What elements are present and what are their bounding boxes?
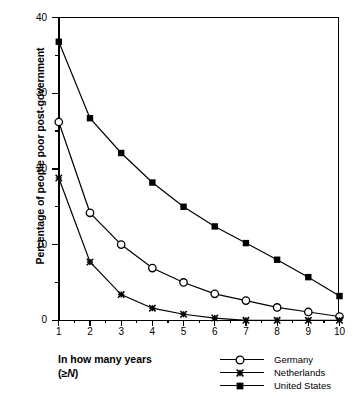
x-caption-line-1: In how many years [58, 352, 152, 366]
legend-marker-cross-star [218, 366, 266, 379]
legend-item: Germany [218, 353, 331, 366]
data-point-cross-star [118, 291, 124, 297]
data-point-open-circle [86, 209, 93, 216]
data-point-filled-square [56, 39, 62, 45]
data-point-cross-star [305, 317, 311, 323]
legend-marker-open-circle [218, 353, 266, 366]
data-point-open-circle [149, 264, 156, 271]
legend-item: United States [218, 379, 331, 392]
legend-label: United States [266, 380, 331, 391]
series-germany [55, 118, 343, 320]
x-axis-caption: In how many years (≥N) [58, 352, 152, 380]
data-point-open-circle [55, 118, 62, 125]
x-caption-line-2: (≥N) [58, 366, 152, 380]
series-lines [0, 0, 353, 399]
data-point-open-circle [242, 297, 249, 304]
data-point-open-circle [211, 290, 218, 297]
data-point-filled-square [87, 115, 93, 121]
data-point-filled-square [243, 240, 249, 246]
x-caption-open: (≥ [58, 367, 67, 379]
data-point-filled-square [274, 257, 280, 263]
data-point-cross-star [180, 311, 186, 317]
series-netherlands [56, 175, 343, 324]
data-point-cross-star [237, 370, 244, 377]
legend-label: Netherlands [266, 367, 325, 378]
data-point-cross-star [243, 317, 249, 323]
x-caption-close: ) [75, 367, 79, 379]
data-point-filled-square [336, 293, 342, 299]
data-point-open-circle [180, 279, 187, 286]
data-point-filled-square [118, 150, 124, 156]
data-point-filled-square [237, 383, 244, 390]
chart-root: Percentage of people poor post-governmen… [0, 0, 353, 399]
x-caption-n: N [67, 367, 75, 379]
data-point-cross-star [56, 175, 62, 181]
series-united-states [56, 39, 343, 300]
data-point-filled-square [149, 179, 155, 185]
data-point-open-circle [273, 304, 280, 311]
legend-glyph [235, 368, 245, 378]
legend-glyph [235, 381, 245, 391]
data-point-cross-star [149, 305, 155, 311]
data-point-cross-star [87, 259, 93, 265]
legend: GermanyNetherlandsUnited States [218, 353, 331, 392]
data-point-open-circle [236, 356, 244, 364]
data-point-cross-star [274, 317, 280, 323]
data-point-cross-star [336, 317, 342, 323]
legend-label: Germany [266, 354, 313, 365]
data-point-filled-square [305, 274, 311, 280]
data-point-open-circle [117, 241, 124, 248]
legend-marker-filled-square [218, 379, 266, 392]
data-point-open-circle [305, 308, 312, 315]
data-point-filled-square [180, 204, 186, 210]
legend-glyph [235, 355, 245, 365]
data-point-cross-star [212, 315, 218, 321]
data-point-filled-square [212, 223, 218, 229]
legend-item: Netherlands [218, 366, 331, 379]
